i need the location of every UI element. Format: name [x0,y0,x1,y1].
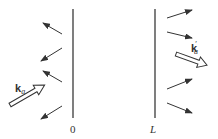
reflected-arrow-icon [41,48,62,61]
reflected-arrow-icon [41,106,62,119]
incident-wavevector-label: ka [15,82,25,96]
incident-wavevector-arrow-icon [7,80,47,110]
boundary-label-right: L [149,123,156,135]
transmitted-arrow-icon [167,79,192,89]
transmitted-arrow-icon [167,10,192,18]
boundary-label-left: 0 [70,123,76,135]
reflected-arrows [41,23,62,119]
transmitted-arrows [167,10,192,113]
slab-wave-diagram: 0 L ka k′a [0,0,218,139]
reflected-arrow-icon [43,23,62,34]
transmitted-wavevector-label: k′a [191,40,198,56]
reflected-arrow-icon [43,71,62,82]
transmitted-arrow-icon [167,32,192,38]
transmitted-arrow-icon [167,103,192,113]
